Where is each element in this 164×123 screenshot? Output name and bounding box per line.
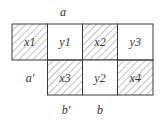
label-a: a [60,5,66,19]
cell-label: y2 [93,71,105,85]
cell-label: x4 [129,71,141,85]
cell-label: y3 [129,35,141,49]
label-b-prime: b′ [62,103,71,117]
label-a-prime: a′ [26,71,35,85]
cell-x4: x4 [118,60,154,95]
cell-label: x1 [23,35,35,49]
cell-y3: y3 [118,24,154,60]
label-b: b [97,103,103,117]
cell-label: x2 [93,35,105,49]
cell-y1: y1 [48,24,83,60]
cell-y2: y2 [83,60,118,95]
cell-label: x3 [58,71,70,85]
grid-diagram: x1 y1 x2 y3 x3 y2 x4 a a′ b′ b [0,0,164,123]
cell-x3: x3 [48,60,83,95]
cell-x1: x1 [12,24,48,60]
cell-x2: x2 [83,24,118,60]
cell-label: y1 [58,35,70,49]
